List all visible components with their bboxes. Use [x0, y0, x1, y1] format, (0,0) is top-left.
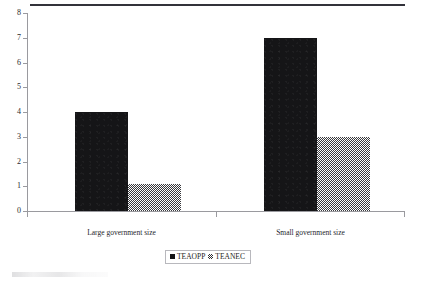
bar-teanec-1	[317, 137, 370, 211]
y-tick-4: 4	[27, 112, 28, 113]
legend-entry-teanec: TEANEC	[208, 253, 245, 261]
y-tick-6: 6	[27, 63, 28, 64]
bar-teaopp-0	[75, 112, 128, 211]
bar-teaopp-1	[264, 38, 317, 211]
x-tick-mark-2	[404, 211, 405, 217]
x-tick-mark-1	[216, 211, 217, 217]
x-tick-mark-0	[27, 211, 28, 217]
y-tick-mark	[23, 137, 28, 138]
y-tick-mark	[23, 162, 28, 163]
checkered-square-icon	[208, 254, 213, 259]
legend-entry-teaopp: TEAOPP	[170, 253, 205, 261]
bar-chart-figure: 012345678 Large government sizeSmall gov…	[0, 0, 427, 283]
y-tick-mark	[23, 112, 28, 113]
scan-artifact-smudge	[12, 272, 108, 277]
y-tick-label: 3	[17, 133, 21, 141]
y-tick-7: 7	[27, 38, 28, 39]
y-tick-label: 4	[17, 108, 21, 116]
legend-label: TEAOPP	[177, 253, 205, 261]
y-tick-mark	[23, 13, 28, 14]
chart-legend: TEAOPPTEANEC	[165, 250, 251, 264]
plot-area: 012345678 Large government sizeSmall gov…	[27, 13, 405, 212]
y-tick-mark	[23, 38, 28, 39]
y-tick-label: 1	[17, 182, 21, 190]
y-tick-5: 5	[27, 87, 28, 88]
y-tick-label: 0	[17, 207, 21, 215]
y-tick-label: 8	[17, 9, 21, 17]
y-tick-label: 6	[17, 59, 21, 67]
category-label-1: Small government size	[216, 229, 405, 237]
bar-teanec-0	[128, 184, 181, 211]
category-label-0: Large government size	[27, 229, 216, 237]
y-tick-mark	[23, 186, 28, 187]
solid-black-square-icon	[170, 254, 175, 259]
legend-label: TEANEC	[215, 253, 245, 261]
y-tick-3: 3	[27, 137, 28, 138]
top-horizontal-rule	[30, 4, 405, 6]
y-tick-label: 2	[17, 158, 21, 166]
y-tick-2: 2	[27, 162, 28, 163]
y-tick-1: 1	[27, 186, 28, 187]
y-tick-8: 8	[27, 13, 28, 14]
y-tick-label: 7	[17, 34, 21, 42]
y-tick-label: 5	[17, 83, 21, 91]
y-tick-mark	[23, 87, 28, 88]
y-tick-mark	[23, 63, 28, 64]
